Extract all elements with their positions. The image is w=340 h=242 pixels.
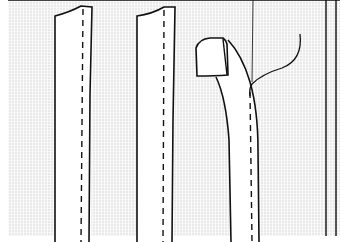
folded-tab [196, 38, 228, 76]
illustration-canvas [0, 0, 340, 242]
fabric-strip-2 [137, 7, 175, 242]
thread-line [250, 34, 301, 96]
fabric-strip-1 [55, 6, 92, 242]
guide-line [252, 0, 253, 82]
sewing-diagram [0, 0, 340, 242]
